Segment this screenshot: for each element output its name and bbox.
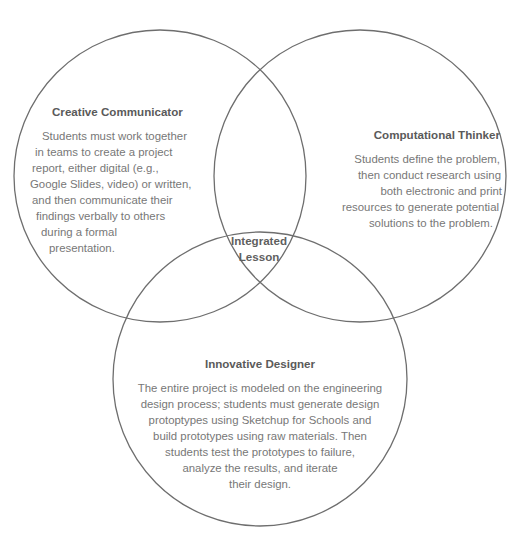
computational-thinker-block: Computational Thinker Students define th… <box>331 127 511 231</box>
text-line: report, either digital (e.g., <box>30 160 220 176</box>
creative-communicator-block: Creative Communicator Students must work… <box>30 104 220 256</box>
text-line: Google Slides, video) or written, <box>30 176 220 192</box>
text-line: resources to generate potential <box>331 199 511 215</box>
text-line: and then communicate their <box>30 192 220 208</box>
text-line: presentation. <box>30 240 220 256</box>
text-line: protoptypes using Sketchup for Schools a… <box>120 412 400 428</box>
text-line: analyze the results, and iterate <box>120 460 400 476</box>
computational-thinker-title: Computational Thinker <box>331 127 511 143</box>
text-line: Students define the problem, <box>331 151 511 167</box>
text-line: students test the prototypes to failure, <box>120 444 400 460</box>
text-line: The entire project is modeled on the eng… <box>120 380 400 396</box>
integrated-lesson-label: Integrated Lesson <box>219 233 299 265</box>
text-line: both electronic and print <box>331 183 511 199</box>
center-line-2: Lesson <box>219 249 299 265</box>
text-line: solutions to the problem. <box>331 215 511 231</box>
text-line: build prototypes using raw materials. Th… <box>120 428 400 444</box>
text-line: during a formal <box>30 224 220 240</box>
text-line: findings verbally to others <box>30 208 220 224</box>
text-line: then conduct research using <box>331 167 511 183</box>
text-line: design process; students must generate d… <box>120 396 400 412</box>
text-line: Students must work together <box>30 128 220 144</box>
center-line-1: Integrated <box>219 233 299 249</box>
innovative-designer-block: Innovative Designer The entire project i… <box>120 356 400 492</box>
text-line: their design. <box>120 476 400 492</box>
creative-communicator-title: Creative Communicator <box>30 104 220 120</box>
innovative-designer-title: Innovative Designer <box>120 356 400 372</box>
text-line: in teams to create a project <box>30 144 220 160</box>
